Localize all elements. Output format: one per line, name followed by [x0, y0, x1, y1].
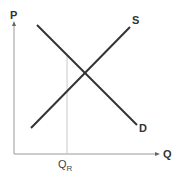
supply-curve	[31, 27, 130, 128]
y-axis-label: P	[10, 9, 17, 21]
x-axis-arrow-icon	[155, 152, 160, 156]
qr-label-sub: R	[67, 164, 73, 173]
supply-curve-label: S	[132, 14, 139, 26]
y-axis-arrow-icon	[12, 21, 16, 26]
demand-curve-label: D	[139, 122, 147, 134]
x-axis-label: Q	[163, 148, 172, 160]
demand-curve	[37, 25, 137, 125]
supply-demand-diagram: P Q S D QR	[0, 0, 184, 183]
qr-label: QR	[58, 158, 73, 173]
